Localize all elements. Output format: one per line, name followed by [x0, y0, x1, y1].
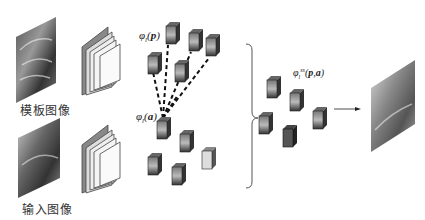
output-arrow	[334, 107, 361, 111]
template-image-caption: 模板图像	[20, 101, 70, 118]
cnn-layer-stack-bottom	[82, 125, 120, 193]
phi-a-features	[148, 117, 216, 185]
cnn-layer-stack-top	[82, 27, 120, 95]
output-image	[371, 60, 415, 152]
input-image-caption: 输入图像	[22, 200, 72, 217]
template-image	[16, 17, 56, 103]
phi-a-label: φl(a)	[136, 110, 157, 125]
phi-pa-features	[259, 76, 327, 147]
input-image	[18, 118, 60, 198]
phi-pa-label: φlss(p,a)	[293, 67, 324, 80]
grouping-brace	[246, 44, 258, 188]
phi-p-label: φl(p)	[139, 29, 160, 44]
